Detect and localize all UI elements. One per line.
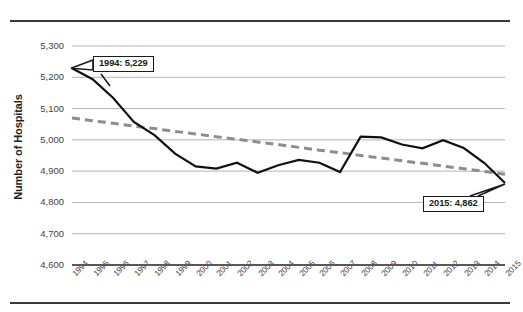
trendline-series <box>72 118 505 174</box>
annotation-callout-start: 1994: 5,229 <box>93 56 154 72</box>
callout-leader <box>101 74 110 86</box>
annotation-callout-end: 2015: 4,862 <box>423 196 484 212</box>
callout-leader <box>470 184 505 196</box>
callout-leader-lines <box>71 60 505 196</box>
callout-leader <box>71 60 93 70</box>
